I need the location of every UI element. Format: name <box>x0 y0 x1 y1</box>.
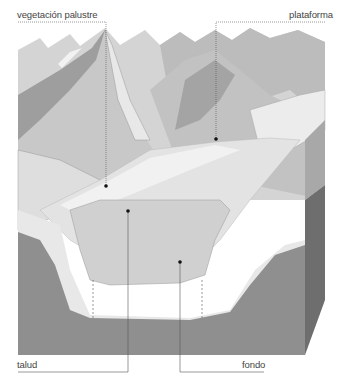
label-talud: talud <box>17 359 37 370</box>
lake-basin-diagram <box>0 0 343 385</box>
label-vegetacion-palustre: vegetación palustre <box>17 9 98 20</box>
lake-body <box>70 200 230 285</box>
dot-talud <box>126 209 130 213</box>
label-plataforma: plataforma <box>289 9 333 20</box>
dot-vegetacion <box>104 184 108 188</box>
dot-fondo <box>178 260 182 264</box>
bedrock-side <box>305 185 325 355</box>
dot-plataforma <box>214 137 218 141</box>
label-fondo: fondo <box>242 359 265 370</box>
